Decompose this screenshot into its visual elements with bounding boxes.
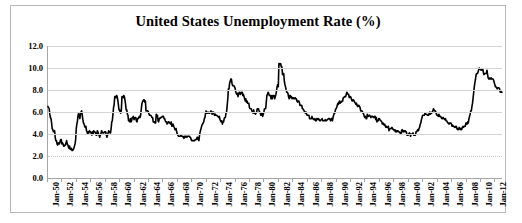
x-axis-tick-label: Jan-04 — [441, 182, 451, 207]
x-axis-tick-label: Jan-58 — [109, 182, 119, 207]
gridline — [48, 46, 502, 47]
x-axis-tick-label: Jan-90 — [340, 182, 350, 207]
series-polyline — [48, 64, 502, 151]
x-axis-tick-label: Jan-92 — [354, 182, 364, 207]
x-axis-tick-mark — [119, 179, 120, 182]
chart-title: United States Unemployment Rate (%) — [11, 13, 505, 30]
x-axis-tick-label: Jan-94 — [368, 182, 378, 207]
gridline — [48, 156, 502, 158]
x-axis-tick-mark — [466, 179, 467, 182]
gridline — [48, 68, 502, 69]
x-axis-tick-label: Jan-12 — [498, 182, 508, 207]
x-axis-tick-mark — [134, 179, 135, 182]
x-axis-tick-label: Jan-66 — [166, 182, 176, 207]
x-axis-tick-mark — [292, 179, 293, 182]
x-axis-tick-label: Jan-50 — [51, 182, 61, 207]
x-axis-tick-label: Jan-76 — [239, 182, 249, 207]
x-axis-tick-mark — [379, 179, 380, 182]
x-axis-tick-mark — [148, 179, 149, 182]
x-axis-tick-mark — [278, 179, 279, 182]
gridline — [48, 134, 502, 135]
x-axis-tick-mark — [162, 179, 163, 182]
x-axis-tick-mark — [263, 179, 264, 182]
x-axis-tick-label: Jan-56 — [94, 182, 104, 207]
x-axis-tick-mark — [235, 179, 236, 182]
x-axis-tick-label: Jan-80 — [267, 182, 277, 207]
x-axis-tick-mark — [105, 179, 106, 182]
x-axis-tick-mark — [47, 179, 48, 182]
x-axis-tick-mark — [437, 179, 438, 182]
x-axis-tick-mark — [177, 179, 178, 182]
x-axis-tick-label: Jan-54 — [80, 182, 90, 207]
y-axis-tick-label: 2.0 — [32, 151, 43, 161]
gridline — [48, 112, 502, 113]
x-axis-tick-mark — [451, 179, 452, 182]
x-axis-tick-label: Jan-82 — [282, 182, 292, 207]
y-axis-labels: 0.02.04.06.08.010.012.0 — [11, 46, 47, 178]
x-axis-tick-label: Jan-74 — [224, 182, 234, 207]
x-axis-tick-mark — [336, 179, 337, 182]
x-axis-tick-mark — [321, 179, 322, 182]
x-axis-labels: Jan-50Jan-52Jan-54Jan-56Jan-58Jan-60Jan-… — [47, 179, 501, 221]
x-axis-tick-label: Jan-98 — [397, 182, 407, 207]
x-axis-tick-mark — [422, 179, 423, 182]
x-axis-tick-label: Jan-68 — [181, 182, 191, 207]
chart-frame: United States Unemployment Rate (%) 0.02… — [10, 5, 506, 213]
x-axis-tick-mark — [350, 179, 351, 182]
x-axis-tick-mark — [480, 179, 481, 182]
x-axis-tick-label: Jan-52 — [65, 182, 75, 207]
gridline — [48, 90, 502, 91]
x-axis-tick-label: Jan-08 — [470, 182, 480, 207]
x-axis-tick-label: Jan-78 — [253, 182, 263, 207]
x-axis-tick-mark — [220, 179, 221, 182]
x-axis-tick-label: Jan-00 — [412, 182, 422, 207]
x-axis-tick-mark — [76, 179, 77, 182]
x-axis-tick-label: Jan-70 — [195, 182, 205, 207]
x-axis-tick-label: Jan-60 — [123, 182, 133, 207]
x-axis-tick-mark — [494, 179, 495, 182]
x-axis-tick-label: Jan-64 — [152, 182, 162, 207]
x-axis-tick-label: Jan-88 — [325, 182, 335, 207]
x-axis-tick-label: Jan-84 — [296, 182, 306, 207]
x-axis-tick-label: Jan-10 — [484, 182, 494, 207]
x-axis-tick-mark — [307, 179, 308, 182]
y-axis-tick-label: 12.0 — [28, 41, 43, 51]
y-axis-tick-label: 6.0 — [32, 107, 43, 117]
x-axis-tick-label: Jan-96 — [383, 182, 393, 207]
y-axis-tick-label: 4.0 — [32, 129, 43, 139]
x-axis-tick-label: Jan-02 — [426, 182, 436, 207]
y-axis-tick-label: 10.0 — [28, 63, 43, 73]
x-axis-tick-label: Jan-62 — [138, 182, 148, 207]
plot-area — [47, 46, 502, 179]
x-axis-tick-mark — [61, 179, 62, 182]
x-axis-tick-mark — [393, 179, 394, 182]
x-axis-tick-mark — [364, 179, 365, 182]
x-axis-tick-mark — [249, 179, 250, 182]
y-axis-tick-label: 0.0 — [32, 173, 43, 183]
x-axis-tick-mark — [191, 179, 192, 182]
y-axis-tick-label: 8.0 — [32, 85, 43, 95]
x-axis-tick-label: Jan-86 — [311, 182, 321, 207]
x-axis-tick-label: Jan-72 — [210, 182, 220, 207]
x-axis-tick-mark — [90, 179, 91, 182]
x-axis-tick-mark — [206, 179, 207, 182]
x-axis-tick-label: Jan-06 — [455, 182, 465, 207]
x-axis-tick-mark — [408, 179, 409, 182]
